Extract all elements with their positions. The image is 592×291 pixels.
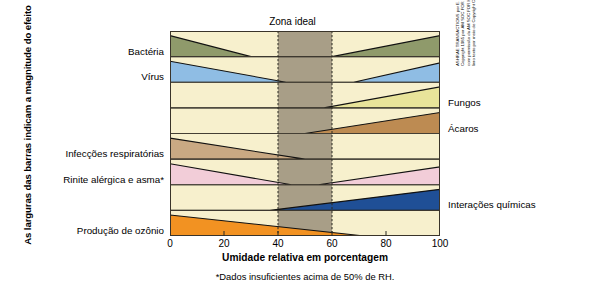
humidity-effect-chart <box>170 31 440 236</box>
x-tick-label-40: 40 <box>263 238 293 249</box>
category-label-v-rus: Vírus <box>0 71 164 82</box>
source-credit: ASHRAE TRANSACTIONS por E. M. Sterling, … <box>455 0 515 66</box>
category-label-produ-o-de-oz-nio: Produção de ozônio <box>0 225 164 236</box>
category-label-caros: Ácaros <box>448 123 592 134</box>
x-tick-label-60: 60 <box>317 238 347 249</box>
category-label-fungos: Fungos <box>448 97 592 108</box>
x-axis-title: Umidade relativa em porcentagem <box>150 252 460 263</box>
category-label-rinite-al-rgica-e-asma: Rinite alérgica e asma* <box>0 174 164 185</box>
category-label-intera-es-qu-micas: Interações químicas <box>448 199 592 210</box>
ideal-zone-label: Zona ideal <box>240 16 345 27</box>
credit-line-4: livro texto por meio de Copyright Cleara… <box>471 0 476 66</box>
x-tick-label-80: 80 <box>371 238 401 249</box>
category-label-bact-ria: Bactéria <box>0 46 164 57</box>
category-label-infec-es-respirat-rias: Infecções respiratórias <box>0 148 164 159</box>
footnote: *Dados insuficientes acima de 50% de RH. <box>110 271 500 282</box>
chart-figure: As larguras das barras indicam a magnitu… <box>0 0 592 291</box>
x-tick-label-20: 20 <box>209 238 239 249</box>
plot-area <box>170 31 440 236</box>
x-tick-label-100: 100 <box>425 238 455 249</box>
x-tick-label-0: 0 <box>155 238 185 249</box>
y-axis-title: As larguras das barras indicam a magnitu… <box>21 0 35 250</box>
